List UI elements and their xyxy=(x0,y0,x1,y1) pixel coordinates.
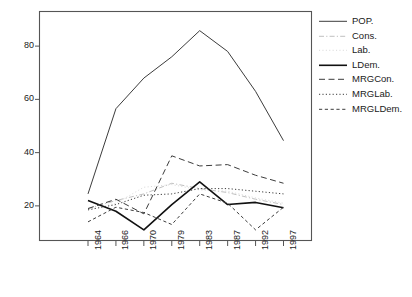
y-axis-label-80: 80 xyxy=(12,40,34,50)
x-axis-label-1997: 1997 xyxy=(288,229,298,249)
plot-frame xyxy=(40,12,312,241)
series-line-cons xyxy=(88,183,284,208)
legend-key-icon xyxy=(318,43,348,58)
legend-key-icon xyxy=(318,29,348,44)
legend-item-pop[interactable]: POP. xyxy=(318,14,412,29)
series-line-lab xyxy=(88,185,284,210)
legend-item-mrglab[interactable]: MRGLab. xyxy=(318,87,412,102)
legend-key-icon xyxy=(318,58,348,73)
legend-key-icon xyxy=(318,14,348,29)
x-axis-label-1992: 1992 xyxy=(260,229,270,249)
chart-page: POP.Cons.Lab.LDem.MRGCon.MRGLab.MRGLDem.… xyxy=(0,0,412,297)
legend-label: Cons. xyxy=(352,30,377,41)
series-line-pop xyxy=(88,31,284,194)
legend-key-icon xyxy=(318,87,348,102)
x-axis-label-1966: 1966 xyxy=(120,229,130,249)
legend-item-mrgldem[interactable]: MRGLDem. xyxy=(318,102,412,117)
legend-item-mrgcon[interactable]: MRGCon. xyxy=(318,72,412,87)
chart-legend: POP.Cons.Lab.LDem.MRGCon.MRGLab.MRGLDem. xyxy=(318,14,412,116)
x-axis-label-1964: 1964 xyxy=(93,229,103,249)
legend-label: LDem. xyxy=(352,59,380,70)
legend-key-icon xyxy=(318,102,348,117)
x-axis-label-1983: 1983 xyxy=(204,229,214,249)
legend-item-lab[interactable]: Lab. xyxy=(318,43,412,58)
legend-label: MRGLab. xyxy=(352,88,393,99)
y-axis-label-20: 20 xyxy=(12,200,34,210)
legend-item-ldem[interactable]: LDem. xyxy=(318,58,412,73)
x-axis-label-1987: 1987 xyxy=(232,229,242,249)
legend-label: POP. xyxy=(352,15,373,26)
series-line-ldem xyxy=(88,182,284,230)
legend-label: MRGCon. xyxy=(352,73,394,84)
y-axis-label-60: 60 xyxy=(12,93,34,103)
legend-key-icon xyxy=(318,72,348,87)
legend-label: Lab. xyxy=(352,44,371,55)
x-axis-label-1979: 1979 xyxy=(176,229,186,249)
x-axis-label-1970: 1970 xyxy=(148,229,158,249)
series-line-mrgcon xyxy=(88,156,284,214)
legend-item-cons[interactable]: Cons. xyxy=(318,29,412,44)
y-axis-label-40: 40 xyxy=(12,147,34,157)
legend-label: MRGLDem. xyxy=(352,103,402,114)
